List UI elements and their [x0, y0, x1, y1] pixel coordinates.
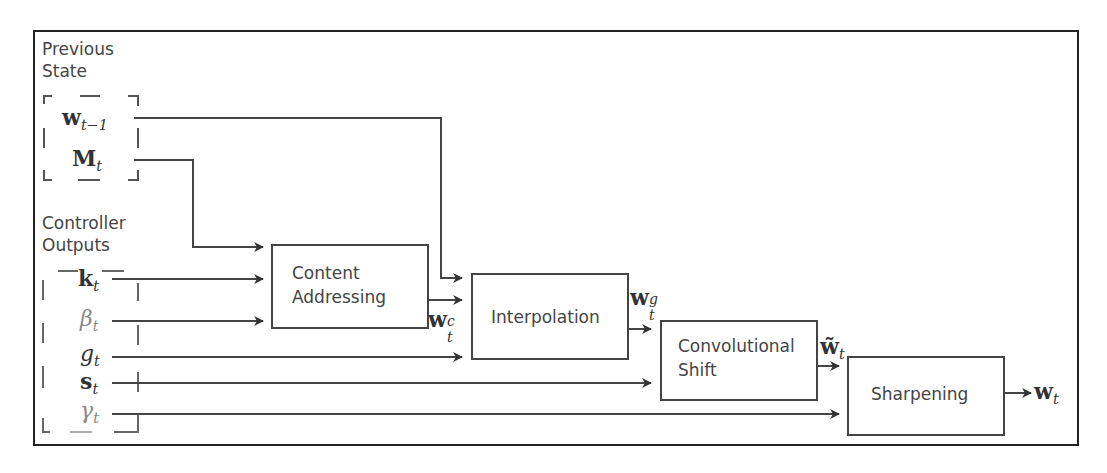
content-addressing-label-line1: Content — [292, 261, 386, 285]
controller-outputs-label: Controller Outputs — [42, 212, 126, 256]
symbol-gamma: γt — [80, 398, 99, 426]
symbol-beta: βt — [80, 306, 98, 334]
previous-state-label-line2: State — [42, 60, 114, 82]
interpolation-label: Interpolation — [491, 305, 600, 329]
controller-outputs-label-line2: Outputs — [42, 234, 126, 256]
convolutional-shift-label-line1: Convolutional — [678, 334, 795, 358]
convolutional-shift-label: Convolutional Shift — [678, 334, 795, 382]
convolutional-shift-label-line2: Shift — [678, 358, 795, 382]
sharpening-block: Sharpening — [847, 356, 1005, 436]
convolutional-shift-block: Convolutional Shift — [660, 320, 818, 401]
content-addressing-block: Content Addressing — [271, 244, 429, 329]
symbol-shift: st — [80, 368, 98, 397]
symbol-w-prev: wt−1 — [62, 104, 108, 133]
previous-state-label: Previous State — [42, 38, 114, 82]
symbol-memory: Mt — [72, 145, 102, 174]
symbol-w-content: w c t — [428, 306, 457, 332]
symbol-key: kt — [78, 265, 99, 294]
controller-outputs-label-line1: Controller — [42, 212, 126, 234]
symbol-w-output: wt — [1034, 378, 1059, 407]
content-addressing-label: Content Addressing — [292, 261, 386, 309]
content-addressing-label-line2: Addressing — [292, 285, 386, 309]
previous-state-label-line1: Previous — [42, 38, 114, 60]
symbol-w-gated: w g t — [630, 284, 659, 310]
symbol-w-tilde: w̃t — [820, 333, 845, 362]
symbol-gate: gt — [80, 341, 100, 369]
sharpening-label: Sharpening — [871, 382, 968, 406]
interpolation-block: Interpolation — [471, 273, 629, 360]
